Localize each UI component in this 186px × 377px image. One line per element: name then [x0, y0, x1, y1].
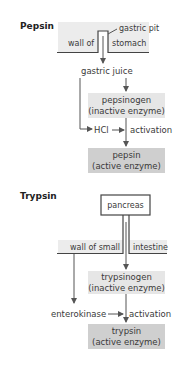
trypsin-section: Trypsin pancreas wall of small intestine…	[20, 191, 171, 349]
pepsin-desc: (active enzyme)	[92, 161, 161, 171]
intestine-wall-right-label: intestine	[133, 243, 168, 252]
enterokinase-label: enterokinase	[51, 309, 106, 319]
stomach-wall-right-label: stomach	[112, 39, 146, 48]
trypsin-desc: (active enzyme)	[92, 337, 161, 347]
gastric-juice-label: gastric juice	[81, 66, 133, 76]
trypsin-activation-label: activation	[129, 309, 171, 319]
stomach-wall-left-label: wall of	[68, 39, 94, 48]
trypsinogen-name: trypsinogen	[101, 272, 152, 282]
pepsin-name: pepsin	[112, 150, 140, 160]
pancreas-label: pancreas	[107, 201, 144, 210]
trypsin-title: Trypsin	[20, 191, 57, 201]
intestine-wall-left-label: wall of small	[70, 243, 120, 252]
trypsin-name: trypsin	[112, 326, 141, 336]
pepsin-section: Pepsin gastric pit wall of stomach gastr…	[20, 21, 172, 173]
pepsin-activation-label: activation	[130, 125, 172, 135]
pepsinogen-desc: (inactive enzyme)	[88, 106, 165, 116]
enzyme-activation-diagram: Pepsin gastric pit wall of stomach gastr…	[0, 0, 186, 377]
pepsinogen-name: pepsinogen	[102, 95, 151, 105]
hcl-label: HCl	[94, 125, 109, 135]
trypsinogen-desc: (inactive enzyme)	[88, 283, 165, 293]
pepsin-title: Pepsin	[20, 21, 54, 31]
gastric-pit-label: gastric pit	[119, 24, 159, 33]
